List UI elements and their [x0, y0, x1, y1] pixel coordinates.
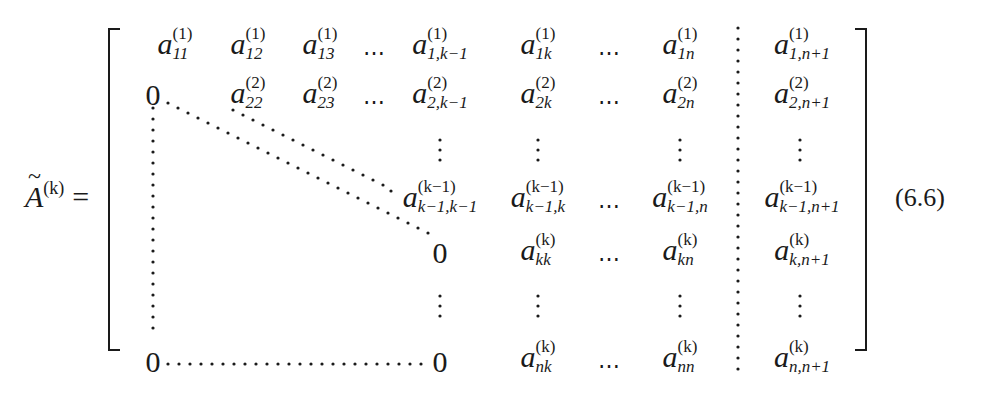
dotted-lines	[0, 0, 1003, 401]
hdots: ⋯	[363, 40, 388, 66]
row6-vdots	[438, 294, 801, 317]
hdots: ⋯	[598, 246, 623, 272]
zero-entry: 0	[433, 236, 448, 270]
matrix-entry: a(k)nk	[521, 340, 556, 379]
matrix-entry: a(k−1)k−1,n	[652, 180, 707, 219]
matrix-entry: a(k)nn	[663, 340, 698, 379]
matrix-entry: a(k)kk	[521, 233, 556, 272]
matrix-entry: a(1)1,n+1	[774, 27, 830, 66]
hdots: ⋯	[363, 89, 388, 115]
matrix-entry: a(1)13	[303, 27, 338, 66]
zero-entry: 0	[433, 345, 448, 379]
left-vertical-dots	[151, 106, 154, 329]
matrix-entry: a(k)n,n+1	[774, 340, 830, 379]
row3-vdots	[438, 138, 801, 161]
matrix-entry: a(k)kn	[663, 233, 698, 272]
matrix-entry: a(2)2,k−1	[412, 76, 467, 115]
matrix-entry: a(1)1n	[663, 27, 698, 66]
matrix-entry: a(1)12	[231, 27, 266, 66]
matrix-entry: a(2)23	[303, 76, 338, 115]
matrix-entry: a(2)22	[231, 76, 266, 115]
bottom-horizontal-dots	[166, 362, 422, 365]
matrix-entry: a(2)2k	[521, 76, 556, 115]
hdots: ⋯	[598, 193, 623, 219]
lower-diagonal-dots	[166, 101, 429, 234]
matrix-entry: a(k−1)k−1,k−1	[403, 180, 477, 219]
zero-entry: 0	[146, 345, 161, 379]
matrix-entry: a(k−1)k−1,n+1	[764, 180, 839, 219]
upper-diagonal-dots	[231, 108, 392, 192]
hdots: ⋯	[598, 40, 623, 66]
matrix-entry: a(1)1,k−1	[412, 27, 467, 66]
hdots: ⋯	[598, 353, 623, 379]
matrix-entry: a(k)k,n+1	[774, 233, 829, 272]
matrix-entry: a(2)2,n+1	[774, 76, 830, 115]
equation-number: (6.6)	[895, 183, 945, 213]
zero-entry: 0	[146, 78, 161, 112]
matrix-entry: a(1)11	[158, 27, 193, 66]
augment-separator-dots	[736, 26, 739, 370]
matrix-entry: a(1)1k	[521, 27, 556, 66]
hdots: ⋯	[598, 89, 623, 115]
matrix-entry: a(k−1)k−1,k	[511, 180, 565, 219]
matrix-entry: a(2)2n	[663, 76, 698, 115]
